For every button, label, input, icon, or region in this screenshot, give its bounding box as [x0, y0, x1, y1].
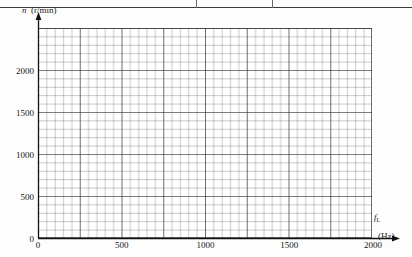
x-tick-label-500: 500 [102, 240, 142, 250]
x-tick-label-1000: 1000 [186, 240, 226, 250]
y-tick-label-1000: 1000 [0, 150, 34, 160]
y-tick-label-1500: 1500 [0, 108, 34, 118]
y-axis-label: n (r/min) [22, 5, 57, 15]
document-rule-tick-left [196, 0, 197, 8]
x-tick-label-0: 0 [18, 240, 58, 250]
x-axis-label: fL [374, 212, 380, 222]
x-tick-label-1500: 1500 [269, 240, 309, 250]
y-tick-label-2000: 2000 [0, 66, 34, 76]
figure-canvas: n (r/min) fL (Hz) [0, 0, 412, 257]
document-top-rule [0, 7, 412, 8]
document-rule-tick-right [272, 0, 273, 8]
y-axis-unit: (r/min) [31, 5, 57, 15]
graph-paper-grid [38, 28, 372, 238]
plot-area [38, 28, 372, 238]
x-axis-subscript: L [377, 217, 381, 223]
x-tick-label-2000: 2000 [353, 240, 393, 250]
y-tick-label-500: 500 [0, 192, 34, 202]
